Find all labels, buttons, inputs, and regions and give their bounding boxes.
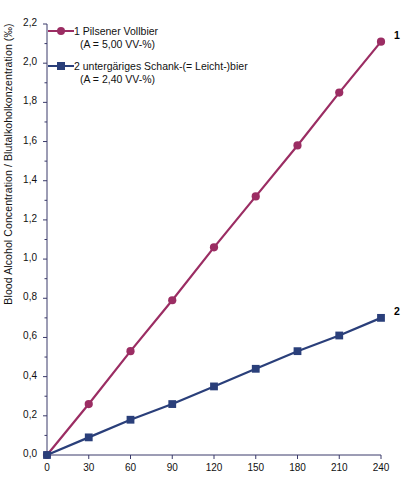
x-tick-label: 120 <box>199 462 229 473</box>
data-point-series-1 <box>168 296 176 304</box>
legend-item-series-2[interactable]: 2 untergäriges Schank-(= Leicht-)bier (A… <box>48 59 298 85</box>
legend-sublabel-series-1: (A = 5,00 VV-%) <box>48 38 298 50</box>
y-tick-label: 1,8 <box>7 95 37 106</box>
data-point-series-1 <box>293 141 301 149</box>
y-tick-label: 0,6 <box>7 330 37 341</box>
data-point-series-1 <box>85 400 93 408</box>
legend-marker-square-icon <box>48 59 74 72</box>
y-tick-label: 1,4 <box>7 174 37 185</box>
legend-sublabel-series-2: (A = 2,40 VV-%) <box>48 73 298 85</box>
data-point-series-1 <box>252 192 260 200</box>
data-point-series-2 <box>168 400 176 408</box>
y-tick-label: 1,6 <box>7 135 37 146</box>
data-point-series-2 <box>210 383 218 391</box>
y-tick-label: 2,2 <box>7 17 37 28</box>
data-point-series-2 <box>85 433 93 441</box>
x-tick-label: 240 <box>366 462 396 473</box>
x-tick-label: 180 <box>283 462 313 473</box>
y-tick-label: 1,0 <box>7 252 37 263</box>
legend-item-series-1[interactable]: 1 Pilsener Vollbier (A = 5,00 VV-%) <box>48 24 298 50</box>
series-end-label-1: 1 <box>394 29 400 41</box>
legend-marker-circle-icon <box>48 24 74 37</box>
data-point-series-1 <box>377 38 385 46</box>
series-end-label-2: 2 <box>394 305 400 317</box>
y-tick-label: 0,8 <box>7 291 37 302</box>
y-tick-label: 2,0 <box>7 56 37 67</box>
x-tick-label: 60 <box>116 462 146 473</box>
x-tick-label: 90 <box>157 462 187 473</box>
legend-label-series-2: 2 untergäriges Schank-(= Leicht-)bier <box>74 60 248 72</box>
x-tick-label: 150 <box>241 462 271 473</box>
data-point-series-2 <box>294 347 302 355</box>
data-point-series-1 <box>210 243 218 251</box>
data-point-series-2 <box>377 314 385 322</box>
data-point-series-2 <box>335 332 343 340</box>
data-point-series-1 <box>126 347 134 355</box>
data-point-series-2 <box>127 416 135 424</box>
legend-label-series-1: 1 Pilsener Vollbier <box>74 25 158 37</box>
y-tick-label: 0,4 <box>7 370 37 381</box>
chart-container: Blood Alcohol Concentration / Blutalkoho… <box>0 0 403 489</box>
y-tick-label: 0,0 <box>7 448 37 459</box>
x-tick-label: 0 <box>32 462 62 473</box>
data-point-series-2 <box>252 365 260 373</box>
y-tick-label: 1,2 <box>7 213 37 224</box>
data-point-series-2 <box>43 451 51 459</box>
data-point-series-1 <box>335 88 343 96</box>
legend: 1 Pilsener Vollbier (A = 5,00 VV-%) 2 un… <box>48 24 298 94</box>
x-tick-label: 210 <box>324 462 354 473</box>
y-tick-label: 0,2 <box>7 409 37 420</box>
x-tick-label: 30 <box>74 462 104 473</box>
